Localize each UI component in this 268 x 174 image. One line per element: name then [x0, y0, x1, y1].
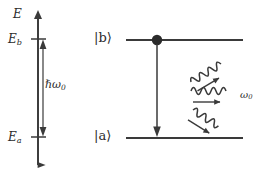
energy-axis-arrowhead	[34, 10, 42, 19]
diagram-canvas	[0, 0, 268, 174]
ket-b-label: |b⟩	[94, 31, 112, 44]
energy-level-b-subscript: b	[17, 37, 22, 47]
photon-frequency-label: ω0	[240, 90, 252, 101]
photon-frequency-symbol: ω	[240, 89, 248, 100]
energy-level-a-label: Ea	[8, 131, 22, 144]
photon-down-right	[187, 107, 220, 135]
energy-gap-symbol: ℏω	[45, 78, 61, 91]
energy-gap-arrowhead-down	[40, 127, 47, 137]
transition-arrowhead	[153, 127, 161, 138]
photon-wave-up-right	[189, 61, 223, 85]
photon-up-right	[189, 61, 226, 91]
photon-wave-right	[191, 88, 226, 95]
downward-transition-arrow	[153, 44, 161, 137]
energy-level-b-symbol: E	[8, 32, 17, 46]
energy-level-a-symbol: E	[8, 130, 17, 144]
energy-gap-subscript: 0	[61, 83, 66, 92]
energy-gap-label: ℏω0	[45, 79, 66, 91]
population-dot	[152, 35, 162, 45]
energy-level-b-label: Eb	[8, 33, 22, 46]
energy-axis-label: E	[13, 8, 22, 20]
energy-axis	[31, 10, 46, 165]
energy-gap-arrowhead-up	[40, 40, 47, 50]
photon-wave-down-right	[191, 107, 220, 129]
ket-a-label: |a⟩	[94, 129, 111, 142]
level-line-b	[126, 35, 243, 45]
photon-frequency-subscript: 0	[248, 93, 252, 101]
photon-right	[191, 88, 226, 103]
energy-level-diagram: E Eb Ea ℏω0 |b⟩ |a⟩ ω0	[0, 0, 268, 174]
energy-level-a-subscript: a	[17, 135, 22, 145]
